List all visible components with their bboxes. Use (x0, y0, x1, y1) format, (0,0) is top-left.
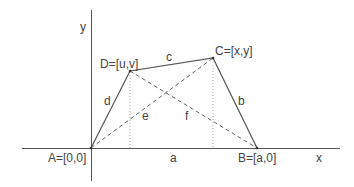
y-axis-label: y (80, 21, 86, 33)
point-label-d: D=[u,v] (100, 58, 138, 70)
segment-label-e: e (142, 110, 149, 122)
vertex-b (256, 147, 259, 150)
segment-label-a: a (170, 152, 177, 164)
segment-label-d: d (104, 95, 111, 107)
segment-label-b: b (238, 95, 245, 107)
point-label-b: B=[a,0] (238, 152, 276, 164)
segment-label-c: c (166, 51, 172, 63)
segment-label-f: f (185, 110, 188, 122)
trapezoid-sides (91, 58, 257, 148)
x-axis-label: x (316, 152, 322, 164)
vertex-c (212, 57, 215, 60)
point-label-c: C=[x,y] (215, 45, 253, 57)
vertex-a (90, 147, 93, 150)
point-label-a: A=[0,0] (48, 152, 86, 164)
